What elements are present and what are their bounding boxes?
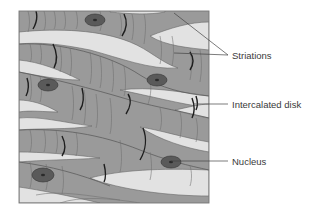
nucleus-3: [38, 79, 58, 91]
label-striations: Striations: [232, 51, 272, 61]
tissue-panel: [19, 11, 209, 203]
nucleus-5: [32, 168, 54, 182]
nucleus-2: [147, 74, 167, 86]
nucleus-1: [85, 14, 105, 26]
nucleus-4: [161, 156, 181, 168]
label-nucleus: Nucleus: [232, 157, 266, 167]
label-intercalated-disk: Intercalated disk: [232, 100, 301, 110]
